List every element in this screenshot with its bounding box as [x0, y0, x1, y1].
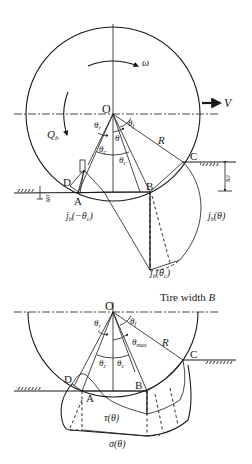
radius-od: [88, 114, 113, 165]
sigma-base-line: [82, 430, 147, 436]
center-o-bottom: O: [105, 299, 114, 313]
ground-hatch-rear: [16, 189, 34, 192]
bottom-diagram: Tire width B O R θr θf θmax θc θc D A B …: [14, 291, 236, 450]
ground-hatch-front-bottom: [205, 361, 233, 364]
torque-label: Qb: [47, 128, 59, 142]
radius-oc: [113, 114, 183, 162]
theta-f-label-bottom: θf: [130, 316, 137, 327]
theta-r-label-bottom: θr: [94, 318, 101, 329]
point-b-top: B: [146, 180, 153, 192]
theta-c-left-label-top: θc: [99, 144, 106, 155]
point-b-bottom: B: [135, 379, 142, 391]
center-o-top: O: [102, 102, 111, 116]
omega-label: ω: [142, 57, 149, 68]
theta-c-right-label-top: θc: [119, 155, 126, 166]
torque-qb-arrow: [64, 92, 68, 135]
sigma-dash-mid: [155, 394, 163, 432]
ground-hatch-front: [200, 163, 220, 166]
theta-max-arc: [113, 334, 128, 340]
tire-width-label: Tire width B: [160, 291, 216, 303]
radius-label-bottom: R: [161, 336, 169, 348]
theta-f-label-top: θf: [128, 118, 135, 129]
normal-stress-label: σ(θ): [109, 438, 126, 450]
sigma-bottom-dash-right: [147, 435, 160, 436]
shear-stress-label: τ(θ): [104, 412, 120, 424]
jb-theta-label: jb(θ): [206, 210, 226, 222]
theta-c-left-label-bottom: θc: [99, 358, 106, 369]
point-a-bottom: A: [86, 392, 94, 404]
jb-theta-c-label: jb(θc): [148, 267, 171, 279]
sigma-dash-right: [170, 388, 178, 425]
theta-r-label-top: θr: [94, 120, 101, 131]
sigma-dash-left: [70, 400, 82, 428]
jb-neg-theta-c-label: jb(−θc): [64, 210, 93, 222]
point-d-top: D: [63, 176, 71, 188]
velocity-label: V: [224, 96, 233, 110]
sinkage-u0-label: u0: [43, 195, 52, 202]
ground-rear-level: [14, 192, 150, 193]
sinkage-s0-label: s0: [222, 175, 232, 182]
point-a-top: A: [74, 195, 82, 207]
point-d-bottom: D: [64, 373, 72, 385]
theta-max-label: θmax: [132, 337, 147, 348]
radius-label-top: R: [157, 134, 165, 146]
top-diagram: O ω V Qb R θr θf θ θc θc D A B C s0 u0 j…: [14, 24, 236, 279]
theta-label-top: θ: [115, 133, 120, 143]
jb-inner-dashed: [152, 196, 170, 263]
normal-stress-envelope: [61, 365, 191, 436]
point-c-bottom: C: [190, 348, 197, 360]
ground-hatch-rear-bottom: [16, 387, 42, 390]
shear-negative-region: [100, 391, 147, 414]
theta-c-right-label-bottom: θc: [117, 358, 124, 369]
point-c-top: C: [190, 150, 197, 162]
wheel-soil-diagram: O ω V Qb R θr θf θ θc θc D A B C s0 u0 j…: [0, 0, 252, 464]
